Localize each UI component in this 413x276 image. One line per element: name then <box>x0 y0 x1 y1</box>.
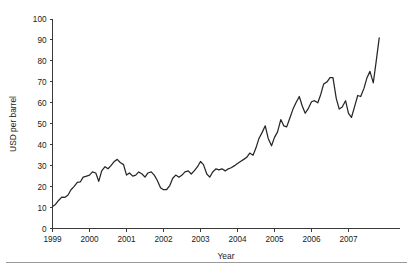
chart-figure: 0102030405060708090100 19992000200120022… <box>0 0 413 276</box>
y-tick-label: 100 <box>33 15 47 24</box>
x-tick-label: 2005 <box>265 235 284 244</box>
y-tick-label: 0 <box>42 225 47 234</box>
y-tick-label: 20 <box>37 183 47 192</box>
y-axis-title: USD per barrel <box>8 96 18 152</box>
data-series-line <box>53 38 380 207</box>
x-tick-label: 2001 <box>117 235 136 244</box>
y-tick-label: 60 <box>37 99 47 108</box>
y-axis-tick-labels: 0102030405060708090100 <box>33 15 47 234</box>
x-tick-label: 1999 <box>43 235 62 244</box>
x-tick-label: 2003 <box>191 235 210 244</box>
x-tick-label: 2002 <box>154 235 173 244</box>
y-tick-label: 90 <box>37 36 47 45</box>
x-axis-tick-labels: 199920002001200220032004200520062007 <box>43 235 358 244</box>
x-tick-label: 2000 <box>80 235 99 244</box>
y-tick-label: 10 <box>37 204 47 213</box>
y-tick-label: 50 <box>37 120 47 129</box>
y-tick-label: 80 <box>37 57 47 66</box>
line-chart: 0102030405060708090100 19992000200120022… <box>0 0 413 276</box>
x-axis-title: Year <box>218 251 235 261</box>
x-tick-label: 2006 <box>302 235 321 244</box>
y-tick-label: 40 <box>37 141 47 150</box>
x-tick-label: 2007 <box>339 235 358 244</box>
y-tick-label: 30 <box>37 162 47 171</box>
x-tick-label: 2004 <box>228 235 247 244</box>
y-tick-label: 70 <box>37 78 47 87</box>
